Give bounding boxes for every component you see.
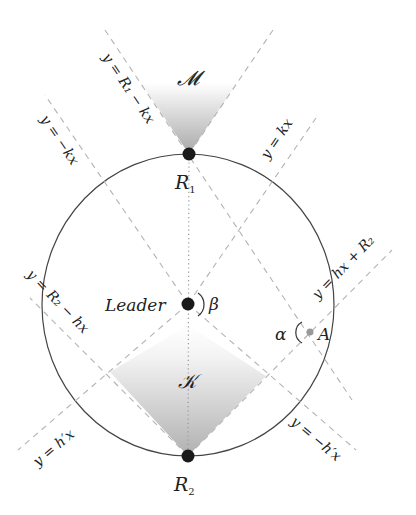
line-minus-kx <box>45 95 188 304</box>
label-eq-r2-minus-hx: y = R₂ − hx <box>23 265 92 336</box>
label-a: A <box>316 324 330 344</box>
label-eq-minus-hpx: y = −h′x <box>287 412 344 464</box>
label-eq-hx-plus-r2: y = hx + R₂ <box>308 232 378 303</box>
point-leader <box>182 298 195 311</box>
point-r1 <box>183 148 196 161</box>
label-beta: β <box>208 294 219 314</box>
angle-alpha-arc <box>296 322 302 343</box>
label-leader: Leader <box>104 295 166 315</box>
label-r2: R2 <box>173 473 195 497</box>
label-eq-hpx: y = h′x <box>29 426 77 470</box>
line-kx <box>188 118 316 304</box>
label-r1: R1 <box>174 171 196 195</box>
angle-beta-arc <box>198 293 204 316</box>
point-a <box>307 329 314 336</box>
label-alpha: α <box>275 324 287 344</box>
diagram-canvas: R1 R2 Leader A β α 𝓜 𝒦 y = R₁ − kx y = k… <box>0 0 416 515</box>
point-r2 <box>182 450 195 463</box>
